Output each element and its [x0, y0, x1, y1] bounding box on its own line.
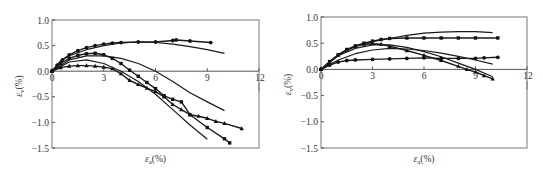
circle-marker [439, 56, 443, 60]
square-marker [228, 141, 231, 144]
circle-marker [174, 38, 178, 42]
series-3 [50, 63, 244, 130]
y-tick-label: −1.5 [301, 144, 318, 154]
y-tick-label: 0.5 [37, 41, 49, 51]
y-tick-label: 1.0 [37, 16, 49, 26]
square-marker [405, 36, 408, 39]
circle-marker [188, 39, 192, 43]
y-tick-label: 0.0 [37, 67, 49, 77]
square-marker [137, 75, 140, 78]
y-tick-label: −1.0 [301, 117, 318, 127]
x-tick-label: 12 [523, 71, 533, 81]
circle-marker [405, 56, 409, 60]
circle-marker [371, 58, 375, 62]
x-tick-label: 9 [205, 73, 210, 83]
x-axis-label: εa(%) [413, 154, 434, 166]
square-marker [76, 54, 79, 57]
square-marker [171, 98, 174, 101]
y-tick-label: −0.5 [301, 91, 318, 101]
circle-marker [422, 56, 426, 60]
square-marker [223, 137, 226, 140]
square-marker [85, 52, 88, 55]
chart-right-svg: 1.00.50.0−0.5−1.0−1.5036912εa(%)εv(%) [271, 0, 543, 174]
y-tick-label: 0.0 [306, 65, 318, 75]
circle-marker [209, 41, 213, 45]
circle-marker [171, 39, 175, 43]
circle-marker [496, 55, 500, 59]
series-line [52, 66, 242, 129]
square-marker [119, 62, 122, 65]
chart-left: 1.00.50.0−0.5−1.0−1.5036912εa(%)εv(%) [0, 0, 272, 174]
circle-marker [353, 58, 357, 62]
square-marker [422, 36, 425, 39]
x-tick-label: 3 [370, 71, 375, 81]
series-line [321, 38, 498, 69]
x-axis-label: εa(%) [145, 154, 166, 166]
circle-marker [345, 59, 349, 63]
square-marker [180, 100, 183, 103]
plot-frame [52, 20, 259, 148]
y-tick-label: −1.0 [32, 118, 49, 128]
y-axis-label: εv(%) [283, 74, 295, 96]
circle-marker [482, 56, 486, 60]
x-tick-label: 0 [50, 73, 55, 83]
y-tick-label: 0.5 [306, 39, 318, 49]
square-marker [457, 36, 460, 39]
circle-marker [388, 57, 392, 61]
y-tick-label: −1.5 [32, 144, 49, 154]
series-0 [319, 36, 499, 71]
square-marker [439, 36, 442, 39]
x-tick-label: 0 [319, 71, 324, 81]
square-marker [128, 68, 131, 71]
x-tick-label: 12 [255, 73, 265, 83]
square-marker [93, 52, 96, 55]
chart-right: 1.00.50.0−0.5−1.0−1.5036912εa(%)εv(%) [271, 0, 543, 174]
series-0 [50, 38, 213, 73]
square-marker [496, 36, 499, 39]
square-marker [145, 81, 148, 84]
y-axis-label: εv(%) [14, 75, 26, 97]
x-tick-label: 3 [101, 73, 106, 83]
square-marker [474, 36, 477, 39]
x-tick-label: 6 [422, 71, 427, 81]
x-tick-label: 6 [153, 73, 158, 83]
y-tick-label: −0.5 [32, 92, 49, 102]
chart-left-svg: 1.00.50.0−0.5−1.0−1.5036912εa(%)εv(%) [0, 0, 272, 174]
y-tick-label: 1.0 [306, 13, 318, 23]
square-marker [206, 126, 209, 129]
